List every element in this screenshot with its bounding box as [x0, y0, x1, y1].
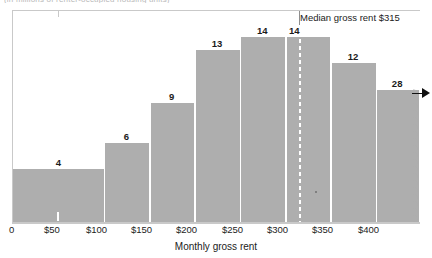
chart-caption: (in millions of renter-occupied housing …	[4, 0, 170, 3]
bar-300-350	[285, 37, 330, 223]
bar-separator	[376, 11, 378, 222]
bar-separator	[149, 11, 151, 222]
bar-separator	[330, 11, 332, 222]
bar-200-250	[194, 50, 239, 222]
histogram-chart: (in millions of renter-occupied housing …	[0, 0, 432, 258]
noise-speck	[315, 191, 317, 193]
x-tick-label: $250	[222, 224, 243, 235]
bar-label-350-400: 12	[330, 51, 375, 62]
scalloped-edge-icon	[413, 82, 423, 222]
median-gross-rent-label: Median gross rent $315	[300, 12, 400, 23]
bar-100-150	[104, 143, 149, 223]
x-tick-label: $50	[44, 224, 60, 235]
bar-label-150-200: 9	[149, 91, 194, 102]
bar-label-0-100: 4	[13, 157, 104, 168]
bar-label-100-150: 6	[104, 131, 149, 142]
x-tick-label: $300	[267, 224, 288, 235]
bar-label-400-plus: 28	[376, 78, 419, 89]
bar-150-200	[149, 103, 194, 222]
x-tick-label: $200	[176, 224, 197, 235]
bar-separator	[104, 11, 106, 222]
x-tick-mark	[57, 212, 59, 221]
x-tick-label: $400	[358, 224, 379, 235]
x-tick-label: $100	[86, 224, 107, 235]
plot-inner: 4 6 9 13 14 14 12 28	[13, 11, 420, 222]
top-tick-mark	[58, 10, 59, 17]
bar-label-200-250: 13	[194, 38, 239, 49]
bar-350-400	[330, 63, 375, 222]
bar-separator	[240, 11, 242, 222]
x-tick-label: $350	[312, 224, 333, 235]
open-range-arrow-icon	[422, 88, 430, 98]
median-gross-rent-line	[299, 11, 301, 222]
bar-separator	[285, 11, 287, 222]
x-tick-label: $150	[131, 224, 152, 235]
bar-label-250-300: 14	[240, 25, 285, 36]
plot-area: 4 6 9 13 14 14 12 28	[12, 10, 420, 222]
bar-label-300-350: 14	[289, 25, 319, 36]
bar-250-300	[240, 37, 285, 223]
x-tick-label: 0	[9, 224, 14, 235]
x-axis-title: Monthly gross rent	[0, 241, 432, 252]
